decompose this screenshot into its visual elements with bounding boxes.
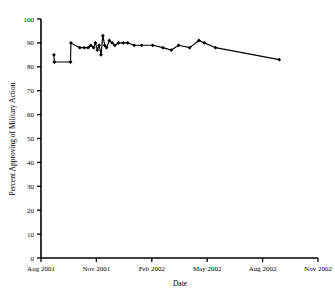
data-point [126,41,130,45]
x-tick-label: Feb 2002 [139,265,166,273]
x-axis-ticks: Aug 2001Nov 2001Feb 2002May 2002Aug 2002… [27,258,332,273]
plot-area [52,34,281,64]
y-tick-label: 20 [27,207,35,215]
data-point [69,60,73,64]
y-tick-label: 60 [27,111,35,119]
y-tick-label: 50 [27,135,35,143]
data-point [151,43,155,47]
x-tick-label: Aug 2002 [249,265,277,273]
y-tick-label: 90 [27,39,35,47]
chart-figure: 0102030405060708090100 Percent Approving… [0,0,335,293]
data-point [101,34,105,38]
data-point [99,53,103,57]
y-tick-label: 40 [27,159,35,167]
data-point [161,46,165,50]
y-tick-label: 30 [27,183,35,191]
data-point [94,41,98,45]
data-point [82,46,86,50]
x-tick-label: Nov 2002 [304,265,332,273]
data-point [52,60,56,64]
data-point [203,41,207,45]
data-point [97,43,101,47]
x-tick-label: Nov 2001 [82,265,110,273]
x-axis-title: Date [173,279,188,288]
y-tick-label: 80 [27,63,35,71]
y-tick-label: 100 [24,16,35,24]
x-tick-label: May 2002 [193,265,222,273]
data-point [214,46,218,50]
y-tick-label: 0 [31,255,35,263]
x-tick-label: Aug 2001 [27,265,55,273]
x-axis-group: Aug 2001Nov 2001Feb 2002May 2002Aug 2002… [27,258,332,288]
data-point [95,48,99,52]
y-tick-label: 10 [27,231,35,239]
y-axis-group: 0102030405060708090100 Percent Approving… [8,16,41,263]
data-point [121,41,125,45]
data-point [132,43,136,47]
y-axis-title: Percent Approving of Military Action [8,82,17,195]
approval-line-chart: 0102030405060708090100 Percent Approving… [0,0,335,293]
data-point [277,58,281,62]
y-tick-label: 70 [27,87,35,95]
y-axis-ticks: 0102030405060708090100 [24,16,42,263]
data-point [52,53,56,57]
data-point [140,43,144,47]
